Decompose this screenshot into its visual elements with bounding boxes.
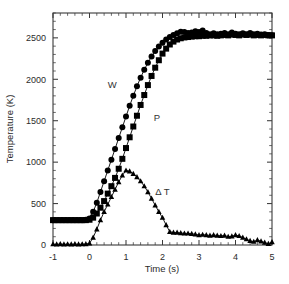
data-point-marker [269, 32, 275, 38]
data-point-marker [116, 135, 122, 141]
data-point-marker [101, 178, 107, 184]
data-point-marker [108, 157, 114, 163]
x-tick-label: 1 [123, 252, 128, 262]
series-label-w: W [108, 79, 117, 90]
y-tick-label: 2000 [26, 75, 46, 85]
y-tick-label: 1000 [26, 157, 46, 167]
data-point-marker [119, 156, 125, 162]
data-point-marker [116, 166, 122, 172]
data-point-marker [105, 167, 111, 173]
data-point-marker [127, 103, 133, 109]
y-axis-title: Temperature (K) [4, 95, 15, 164]
data-point-marker [149, 73, 155, 79]
data-point-marker [145, 60, 151, 66]
x-tick-label: -1 [49, 252, 57, 262]
x-axis-title: Time (s) [145, 263, 179, 274]
data-point-marker [141, 92, 147, 98]
x-tick-label: 5 [269, 252, 274, 262]
data-point-marker [101, 198, 107, 204]
y-tick-label: 500 [31, 199, 46, 209]
series-label-p: P [154, 112, 160, 123]
data-point-marker [145, 82, 151, 88]
data-point-marker [94, 211, 100, 217]
data-point-marker [138, 75, 144, 81]
data-point-marker [123, 114, 129, 120]
data-point-marker [108, 183, 114, 189]
x-axis-tick-labels: -1012345 [49, 252, 275, 262]
data-point-marker [112, 175, 118, 181]
data-point-marker [141, 67, 147, 73]
data-point-marker [138, 102, 144, 108]
data-point-marker [149, 54, 155, 60]
y-tick-label: 0 [41, 240, 46, 250]
x-tick-label: 4 [233, 252, 238, 262]
data-point-marker [152, 65, 158, 71]
data-point-marker [97, 189, 103, 195]
y-axis-tick-labels: 05001000150020002500 [26, 33, 46, 250]
data-point-marker [156, 57, 162, 63]
data-point-marker [105, 191, 111, 197]
data-point-marker [134, 83, 140, 89]
data-point-marker [123, 145, 129, 151]
data-point-marker [112, 146, 118, 152]
data-point-marker [119, 124, 125, 130]
x-tick-label: 3 [196, 252, 201, 262]
data-point-marker [97, 205, 103, 211]
chart-figure: -1012345 05001000150020002500 WPΔ T Time… [0, 0, 289, 284]
data-point-marker [130, 93, 136, 99]
x-tick-label: 2 [160, 252, 165, 262]
plot-area-background [53, 13, 272, 245]
data-point-marker [130, 124, 136, 130]
y-tick-label: 1500 [26, 116, 46, 126]
temperature-vs-time-plot: -1012345 05001000150020002500 WPΔ T Time… [0, 0, 289, 284]
x-tick-label: 0 [87, 252, 92, 262]
data-point-marker [134, 113, 140, 119]
y-tick-label: 2500 [26, 33, 46, 43]
series-label-t: Δ T [155, 186, 169, 197]
data-point-marker [127, 134, 133, 140]
